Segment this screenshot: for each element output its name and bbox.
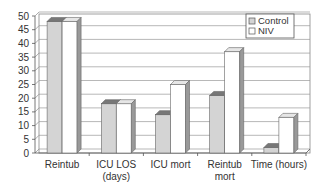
bar-niv-0 <box>62 17 81 153</box>
x-category-label: ICU LOS <box>96 159 136 170</box>
bar-niv-3 <box>225 48 244 153</box>
bar-niv-2 <box>171 81 190 154</box>
legend-label-niv: NIV <box>258 25 275 36</box>
y-tick-label: 10 <box>18 120 30 131</box>
x-category-label: mort <box>215 171 235 182</box>
y-tick-label: 35 <box>18 52 30 63</box>
y-tick-label: 50 <box>18 11 30 22</box>
x-category-label: Reintub <box>45 159 80 170</box>
bar-chart: 05101520253035404550ReintubICU LOS(days)… <box>0 0 315 192</box>
legend-swatch-control <box>249 18 255 24</box>
y-tick-label: 40 <box>18 38 30 49</box>
bar-niv-4 <box>279 113 298 153</box>
x-category-label: Reintub <box>207 159 242 170</box>
bar-niv-1 <box>116 100 135 153</box>
x-category-label: ICU mort <box>151 159 191 170</box>
x-category-label: (days) <box>102 171 130 182</box>
y-tick-label: 25 <box>18 79 30 90</box>
y-tick-label: 0 <box>23 148 29 159</box>
legend: ControlNIV <box>246 14 294 38</box>
y-tick-label: 20 <box>18 93 30 104</box>
legend-swatch-niv <box>249 28 255 34</box>
y-tick-label: 15 <box>18 106 30 117</box>
x-category-label: Time (hours) <box>251 159 307 170</box>
y-tick-label: 5 <box>23 134 29 145</box>
y-tick-label: 30 <box>18 65 30 76</box>
y-tick-label: 45 <box>18 24 30 35</box>
